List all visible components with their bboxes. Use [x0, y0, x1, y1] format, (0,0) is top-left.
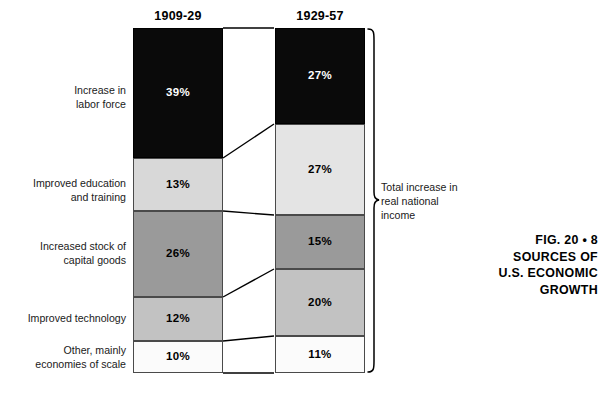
brace-label-line: real national	[381, 194, 491, 208]
column-header-1929-57: 1929-57	[275, 9, 365, 23]
segment-value: 15%	[308, 236, 332, 248]
row-label-line: labor force	[8, 98, 126, 112]
bar-column-1909-29: 39% 13% 26% 12% 10%	[133, 28, 223, 373]
bar-segment-technology-1909-29[interactable]: 12%	[133, 297, 223, 341]
row-label-line: Improved technology	[8, 312, 126, 326]
row-label-line: and training	[8, 191, 126, 205]
segment-value: 39%	[166, 87, 190, 99]
row-label-capital-goods: Increased stock of capital goods	[8, 240, 126, 267]
connector-line-education-capital	[223, 211, 274, 215]
connector-line-capital-technology	[223, 269, 274, 297]
stacked-bar-chart: 1909-29 1929-57 Increase in labor force …	[0, 0, 610, 398]
segment-value: 27%	[308, 164, 332, 176]
segment-value: 27%	[308, 70, 332, 82]
segment-value: 11%	[308, 349, 331, 361]
total-brace	[368, 29, 379, 372]
segment-value: 26%	[166, 248, 190, 260]
bar-segment-capital-goods-1909-29[interactable]: 26%	[133, 211, 223, 297]
row-label-line: Increase in	[8, 84, 126, 98]
brace-label-line: income	[381, 208, 491, 222]
figure-caption-line: GROWTH	[408, 282, 598, 299]
segment-value: 12%	[166, 313, 190, 325]
segment-value: 10%	[166, 351, 190, 363]
bar-segment-education-1909-29[interactable]: 13%	[133, 158, 223, 211]
connector-line-labor-education	[223, 124, 274, 158]
row-label-education: Improved education and training	[8, 177, 126, 204]
connector-line-technology-other	[223, 336, 274, 341]
row-label-line: Improved education	[8, 177, 126, 191]
bar-segment-labor-force-1929-57[interactable]: 27%	[275, 28, 365, 124]
figure-caption-line: U.S. ECONOMIC	[408, 265, 598, 282]
bar-segment-technology-1929-57[interactable]: 20%	[275, 269, 365, 336]
bar-segment-capital-goods-1929-57[interactable]: 15%	[275, 215, 365, 269]
row-label-line: economies of scale	[8, 358, 126, 372]
bar-segment-other-1909-29[interactable]: 10%	[133, 341, 223, 373]
row-label-line: Increased stock of	[8, 240, 126, 254]
figure-caption: FIG. 20 • 8 SOURCES OF U.S. ECONOMIC GRO…	[408, 232, 598, 298]
segment-value: 20%	[308, 297, 332, 309]
row-label-technology: Improved technology	[8, 312, 126, 326]
column-header-1909-29: 1909-29	[133, 9, 223, 23]
bar-column-1929-57: 27% 27% 15% 20% 11%	[275, 28, 365, 373]
segment-value: 13%	[166, 179, 190, 191]
bar-segment-labor-force-1909-29[interactable]: 39%	[133, 28, 223, 158]
row-label-line: capital goods	[8, 254, 126, 268]
row-label-other: Other, mainly economies of scale	[8, 344, 126, 371]
row-label-labor-force: Increase in labor force	[8, 84, 126, 111]
bar-segment-other-1929-57[interactable]: 11%	[275, 336, 365, 373]
figure-caption-line: SOURCES OF	[408, 249, 598, 266]
brace-label-total-increase: Total increase in real national income	[381, 180, 491, 222]
figure-caption-line: FIG. 20 • 8	[408, 232, 598, 249]
row-label-line: Other, mainly	[8, 344, 126, 358]
brace-label-line: Total increase in	[381, 180, 491, 194]
bar-segment-education-1929-57[interactable]: 27%	[275, 124, 365, 215]
